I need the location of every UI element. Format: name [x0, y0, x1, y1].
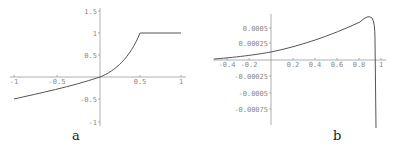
x-tick-label: 0.4: [309, 61, 322, 69]
y-tick-label: -0.00025: [234, 73, 268, 81]
curve-a: [14, 33, 181, 99]
x-tick-label: 1: [179, 78, 183, 86]
x-tick-label: 0.8: [353, 61, 366, 69]
x-tick-label: -1: [10, 78, 18, 86]
x-tick-label: -0.2: [241, 61, 258, 69]
y-tick-label: 1: [93, 30, 97, 38]
figure: -1-0.50.51 1.510.5-0.5-1 a -0.4-0.20.20.…: [0, 0, 398, 148]
y-tick-label: 0.5: [84, 52, 97, 60]
y-tick-label: 1.5: [84, 8, 97, 16]
x-tick-label: -0.5: [49, 78, 66, 86]
y-tick-label: -1: [89, 119, 97, 127]
x-tick-label: 0.2: [287, 61, 300, 69]
y-tick-label: -0.0005: [238, 90, 268, 98]
x-tick-label: -0.4: [219, 61, 236, 69]
x-tick-label: 0.6: [331, 61, 344, 69]
plot-b: -0.4-0.20.20.40.60.81 0.00050.00025-0.00…: [213, 14, 386, 143]
y-tick-label: -0.00075: [234, 106, 268, 114]
panel-label-b: b: [333, 128, 341, 143]
y-tick-label: 0.00025: [238, 40, 268, 48]
y-tick-label: -0.5: [80, 96, 97, 104]
x-tick-label: 1: [379, 61, 383, 69]
y-tick-label: 0.0005: [243, 25, 268, 33]
panel-label-a: a: [72, 128, 80, 143]
x-tick-label: 0.5: [134, 78, 147, 86]
plot-a: -1-0.50.51 1.510.5-0.5-1 a: [10, 8, 186, 144]
